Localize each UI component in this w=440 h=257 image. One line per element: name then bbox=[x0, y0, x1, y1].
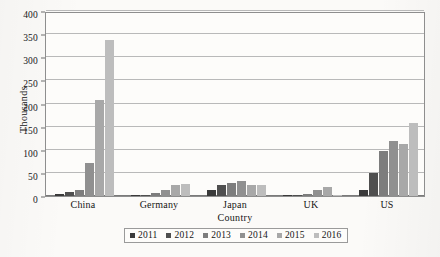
bar bbox=[85, 163, 94, 196]
plot-area bbox=[45, 12, 425, 197]
bar bbox=[369, 173, 378, 196]
bar bbox=[171, 185, 180, 196]
legend-label: 2015 bbox=[285, 230, 305, 240]
bar-group bbox=[122, 13, 198, 196]
bar bbox=[131, 195, 140, 196]
legend-label: 2016 bbox=[322, 230, 342, 240]
legend-label: 2012 bbox=[174, 230, 194, 240]
y-tick-label: 50 bbox=[28, 172, 38, 177]
y-tick-label: 0 bbox=[33, 195, 38, 200]
x-axis: ChinaGermanyJapanUKUS bbox=[45, 199, 425, 213]
bar bbox=[227, 183, 236, 196]
y-tick-label: 300 bbox=[23, 56, 38, 61]
legend-label: 2013 bbox=[211, 230, 231, 240]
x-tick-label: UK bbox=[304, 199, 319, 210]
x-tick-label: Germany bbox=[140, 199, 179, 210]
bar-group bbox=[274, 13, 350, 196]
bar bbox=[151, 193, 160, 196]
legend-item[interactable]: 2011 bbox=[130, 230, 157, 240]
y-tick-label: 150 bbox=[23, 125, 38, 130]
legend-item[interactable]: 2013 bbox=[203, 230, 231, 240]
y-axis: 050100150200250300350400 bbox=[0, 12, 45, 197]
bar bbox=[359, 190, 368, 196]
legend-label: 2011 bbox=[138, 230, 157, 240]
bar bbox=[323, 187, 332, 196]
legend-swatch-icon bbox=[314, 233, 319, 238]
legend-item[interactable]: 2014 bbox=[240, 230, 268, 240]
bar-chart: Thousands 050100150200250300350400 China… bbox=[0, 0, 440, 257]
bar bbox=[75, 190, 84, 196]
bar bbox=[141, 195, 150, 196]
bar bbox=[161, 190, 170, 196]
bar bbox=[247, 185, 256, 196]
legend-label: 2014 bbox=[248, 230, 268, 240]
legend: 201120122013201420152016 bbox=[124, 228, 348, 243]
bar bbox=[237, 181, 246, 196]
bar bbox=[55, 194, 64, 196]
bar bbox=[293, 195, 302, 196]
bar bbox=[379, 151, 388, 196]
y-tick-label: 200 bbox=[23, 102, 38, 107]
y-tick-label: 250 bbox=[23, 79, 38, 84]
legend-swatch-icon bbox=[277, 233, 282, 238]
bar bbox=[105, 40, 114, 196]
legend-swatch-icon bbox=[240, 233, 245, 238]
legend-swatch-icon bbox=[203, 233, 208, 238]
legend-item[interactable]: 2012 bbox=[166, 230, 194, 240]
x-tick-label: Japan bbox=[223, 199, 247, 210]
bar bbox=[257, 185, 266, 196]
bar bbox=[65, 192, 74, 196]
bar bbox=[207, 190, 216, 196]
x-tick-label: US bbox=[380, 199, 393, 210]
y-tick-label: 100 bbox=[23, 148, 38, 153]
bar bbox=[409, 123, 418, 196]
legend-swatch-icon bbox=[166, 233, 171, 238]
bars-layer bbox=[46, 13, 424, 196]
bar bbox=[181, 184, 190, 196]
bar bbox=[217, 185, 226, 196]
bar bbox=[283, 195, 292, 196]
bar bbox=[389, 141, 398, 196]
x-axis-title: Country bbox=[45, 212, 425, 223]
bar bbox=[313, 190, 322, 196]
bar-group bbox=[46, 13, 122, 196]
legend-swatch-icon bbox=[130, 233, 135, 238]
y-tick-label: 400 bbox=[23, 10, 38, 15]
bar bbox=[333, 195, 342, 196]
legend-item[interactable]: 2016 bbox=[314, 230, 342, 240]
x-tick-label: China bbox=[71, 199, 96, 210]
gridline bbox=[46, 10, 424, 11]
legend-item[interactable]: 2015 bbox=[277, 230, 305, 240]
bar bbox=[399, 144, 408, 196]
bar bbox=[303, 194, 312, 196]
bar-group bbox=[350, 13, 426, 196]
y-tick-label: 350 bbox=[23, 33, 38, 38]
bar bbox=[95, 100, 104, 196]
bar-group bbox=[198, 13, 274, 196]
